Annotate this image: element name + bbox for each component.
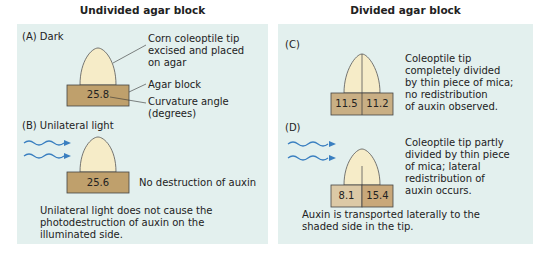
desc-d-line4: redistribution of <box>405 173 485 185</box>
light-waves-d <box>288 142 328 160</box>
value-d-left: 8.1 <box>331 190 362 202</box>
desc-d-line2: divided by thin piece <box>405 149 510 161</box>
desc-c-line3: by thin piece of mica; <box>405 77 513 89</box>
value-c-right: 11.2 <box>362 98 393 110</box>
conclusion-d-line2: shaded side in the tip. <box>302 221 413 233</box>
coleoptile-tip-a <box>80 48 116 85</box>
desc-d-line3: of mica; lateral <box>405 161 481 173</box>
panel-c-label: (C) <box>285 39 300 50</box>
annotation-tip-line1: Corn coleoptile tip <box>148 33 239 45</box>
value-c-left: 11.5 <box>331 98 362 110</box>
annotation-agar-block: Agar block <box>148 79 201 91</box>
panel-a-label: (A) Dark <box>22 31 64 42</box>
annotation-tip-line2: excised and placed <box>148 45 244 57</box>
conclusion-b-line3: illuminated side. <box>40 229 123 241</box>
light-waves-b <box>24 141 64 158</box>
conclusion-d-line1: Auxin is transported laterally to the <box>302 209 480 221</box>
note-b: No destruction of auxin <box>139 177 256 189</box>
coleoptile-tip-b <box>80 137 116 172</box>
panel-b-label: (B) Unilateral light <box>22 120 114 131</box>
desc-c-line4: no redistribution <box>405 89 488 101</box>
desc-d-line5: auxin occurs. <box>405 185 472 197</box>
desc-c-line5: of auxin observed. <box>405 101 498 113</box>
annotation-tip-line3: on agar <box>148 57 186 69</box>
value-a: 25.8 <box>67 89 129 101</box>
desc-c-line1: Coleoptile tip <box>405 53 471 65</box>
conclusion-b-line1: Unilateral light does not cause the <box>40 205 212 217</box>
conclusion-b-line2: photodestruction of auxin on the <box>40 217 204 229</box>
desc-c-line2: completely divided <box>405 65 500 77</box>
annotation-angle-line1: Curvature angle <box>148 96 229 108</box>
value-b: 25.6 <box>67 177 129 189</box>
value-d-right: 15.4 <box>362 190 393 202</box>
panel-d-label: (D) <box>285 122 301 133</box>
annotation-angle-line2: (degrees) <box>148 108 196 120</box>
desc-d-line1: Coleoptile tip partly <box>405 137 504 149</box>
